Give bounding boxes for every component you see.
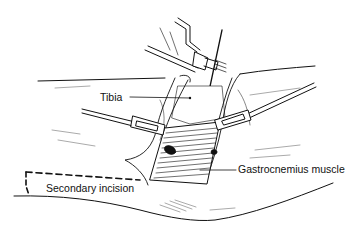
secondary-incision-line bbox=[26, 172, 140, 180]
secondary-incision-label: Secondary incision bbox=[46, 183, 134, 194]
left-retractor bbox=[82, 109, 165, 135]
secondary-incision-line-vertical bbox=[26, 172, 29, 195]
leg-upper-contour bbox=[38, 66, 315, 81]
surgical-illustration bbox=[0, 0, 353, 232]
tibia-leader-dot bbox=[189, 97, 191, 99]
tibia-bone bbox=[172, 86, 225, 124]
gastrocnemius-muscle-label: Gastrocnemius muscle bbox=[238, 164, 345, 175]
tibia-label: Tibia bbox=[100, 92, 122, 103]
